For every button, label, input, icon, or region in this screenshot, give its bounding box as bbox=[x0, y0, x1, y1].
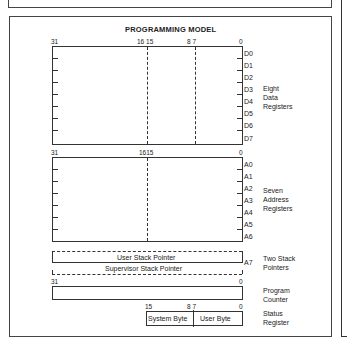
tick bbox=[237, 181, 242, 182]
stack-pointers-label-2: Pointers bbox=[263, 263, 289, 272]
bit-label-16-15: 16 15 bbox=[137, 38, 153, 45]
bit-label-31: 31 bbox=[51, 38, 58, 45]
tick bbox=[53, 82, 58, 83]
bit16-divider bbox=[147, 47, 148, 144]
tick bbox=[53, 217, 58, 218]
tick bbox=[53, 94, 58, 95]
system-byte-label: System Byte bbox=[148, 315, 187, 322]
user-stack-pointer-label: User Stack Pointer bbox=[117, 254, 175, 261]
sr-bit-label-8-7: 8 7 bbox=[187, 303, 196, 310]
register-d4: D4 bbox=[244, 98, 253, 105]
tick bbox=[237, 130, 242, 131]
register-a2: A2 bbox=[244, 185, 253, 192]
sp-divider bbox=[52, 262, 243, 263]
tick bbox=[53, 193, 58, 194]
tick bbox=[53, 106, 58, 107]
tick bbox=[237, 169, 242, 170]
register-a0: A0 bbox=[244, 161, 253, 168]
pc-bit-label-31: 31 bbox=[51, 278, 58, 285]
previous-figure-box bbox=[8, 0, 332, 8]
register-d0: D0 bbox=[244, 50, 253, 57]
pc-bit-label-0: 0 bbox=[239, 278, 243, 285]
tick bbox=[53, 181, 58, 182]
usp-top-dashed bbox=[52, 251, 242, 252]
program-counter-label-2: Counter bbox=[263, 295, 288, 304]
addr-bit-label-0: 0 bbox=[239, 149, 243, 156]
register-a1: A1 bbox=[244, 173, 253, 180]
page-edge-foot bbox=[341, 336, 347, 337]
tick bbox=[53, 229, 58, 230]
diagram-title: PROGRAMMING MODEL bbox=[125, 25, 216, 34]
data-registers-label-1: Eight bbox=[263, 84, 279, 93]
page-edge-line bbox=[341, 0, 342, 337]
program-counter-register bbox=[52, 286, 243, 300]
address-registers-label-1: Seven bbox=[263, 186, 283, 195]
addr-block-bottom bbox=[52, 241, 243, 242]
data-registers-label-3: Registers bbox=[263, 102, 293, 111]
register-a5: A5 bbox=[244, 221, 253, 228]
tick bbox=[237, 229, 242, 230]
register-a6: A6 bbox=[244, 233, 253, 240]
data-registers-label-2: Data bbox=[263, 93, 278, 102]
bit-label-8-7: 8 7 bbox=[187, 38, 196, 45]
tick bbox=[53, 130, 58, 131]
sp-left-bottom bbox=[52, 270, 53, 274]
sp-left-top bbox=[52, 251, 53, 263]
stack-pointers-label-1: Two Stack bbox=[263, 254, 295, 263]
register-a4: A4 bbox=[244, 209, 253, 216]
tick bbox=[237, 217, 242, 218]
tick bbox=[237, 106, 242, 107]
sp-right-bottom bbox=[242, 270, 243, 274]
status-register-label-1: Status bbox=[263, 309, 283, 318]
register-d7: D7 bbox=[244, 135, 253, 142]
tick bbox=[53, 205, 58, 206]
register-d2: D2 bbox=[244, 74, 253, 81]
addr-bit-label-16-15: 1615 bbox=[139, 149, 153, 156]
tick bbox=[53, 58, 58, 59]
addr-bit16-divider bbox=[147, 158, 148, 241]
tick bbox=[237, 94, 242, 95]
register-d6: D6 bbox=[244, 122, 253, 129]
data-block-right bbox=[242, 46, 243, 145]
ssp-bottom-dashed bbox=[52, 274, 242, 275]
sr-bit-label-0: 0 bbox=[239, 303, 243, 310]
supervisor-stack-pointer-label: Supervisor Stack Pointer bbox=[105, 265, 182, 272]
program-counter-label-1: Program bbox=[263, 286, 290, 295]
addr-block-right bbox=[242, 157, 243, 242]
user-byte-label: User Byte bbox=[200, 315, 231, 322]
tick bbox=[53, 70, 58, 71]
tick bbox=[53, 169, 58, 170]
tick bbox=[53, 118, 58, 119]
status-register-label-2: Register bbox=[263, 318, 289, 327]
register-a3: A3 bbox=[244, 197, 253, 204]
tick bbox=[237, 70, 242, 71]
addr-bit-label-31: 31 bbox=[51, 149, 58, 156]
sp-right-top bbox=[242, 251, 243, 263]
register-d5: D5 bbox=[244, 110, 253, 117]
tick bbox=[237, 82, 242, 83]
tick bbox=[237, 58, 242, 59]
bit-label-0: 0 bbox=[239, 38, 243, 45]
bit8-divider bbox=[195, 47, 196, 144]
sr-bit-label-15: 15 bbox=[145, 303, 152, 310]
register-a7: A7 bbox=[244, 259, 253, 266]
address-registers-label-3: Registers bbox=[263, 204, 293, 213]
tick bbox=[237, 193, 242, 194]
address-registers-label-2: Address bbox=[263, 195, 289, 204]
register-d1: D1 bbox=[244, 62, 253, 69]
data-block-bottom bbox=[52, 144, 243, 145]
sr-byte-divider bbox=[193, 310, 194, 327]
tick bbox=[237, 118, 242, 119]
register-d3: D3 bbox=[244, 86, 253, 93]
tick bbox=[237, 205, 242, 206]
